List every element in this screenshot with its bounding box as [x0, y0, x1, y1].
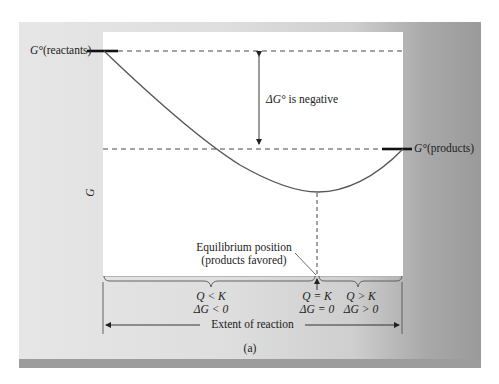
y-axis-label: G: [84, 188, 97, 196]
g-standard-symbol: G°: [30, 44, 43, 56]
q-relation-right: Q > K: [328, 290, 394, 303]
products-level-label: G°(products): [414, 142, 474, 155]
delta-g-label: ΔG° is negative: [266, 93, 338, 106]
equilibrium-leader-line: [295, 253, 316, 275]
q-relation-left: Q < K: [176, 290, 246, 303]
delta-g-symbol: ΔG°: [266, 93, 286, 105]
brace-q-greater-than-k: [319, 276, 402, 287]
reactants-text: (reactants): [43, 44, 92, 56]
equilibrium-annotation: Equilibrium position (products favored): [190, 241, 298, 267]
region-right-label: Q > K ΔG > 0: [328, 290, 394, 316]
free-energy-curve: [104, 51, 403, 192]
g-standard-symbol: G°: [414, 142, 427, 154]
equilibrium-line1: Equilibrium position: [190, 241, 298, 254]
products-text: (products): [427, 142, 474, 154]
equilibrium-line2: (products favored): [190, 254, 298, 267]
brace-q-less-than-k: [104, 276, 315, 287]
x-axis-label: Extent of reaction: [200, 318, 305, 331]
panel-label: (a): [235, 342, 265, 355]
reactants-level-label: G°(reactants): [30, 44, 91, 57]
region-left-label: Q < K ΔG < 0: [176, 290, 246, 316]
delta-g-text: is negative: [286, 93, 338, 105]
dg-relation-right: ΔG > 0: [328, 303, 394, 316]
dg-relation-left: ΔG < 0: [176, 303, 246, 316]
